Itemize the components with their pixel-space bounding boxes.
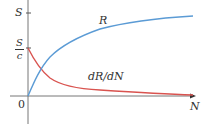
y-label-S: S <box>15 7 23 18</box>
rate-curves-figure: S S c 0 N R dR/dN <box>0 0 203 124</box>
curve-label-R: R <box>99 15 107 26</box>
x-axis-label-N: N <box>190 101 200 112</box>
frac-numerator: S <box>16 38 23 48</box>
curve-R <box>28 16 193 96</box>
frac-denominator: c <box>17 51 23 61</box>
curve-label-dRdN: dR/dN <box>88 71 124 82</box>
origin-label: 0 <box>18 99 25 110</box>
y-label-S-over-c: S c <box>15 38 24 61</box>
